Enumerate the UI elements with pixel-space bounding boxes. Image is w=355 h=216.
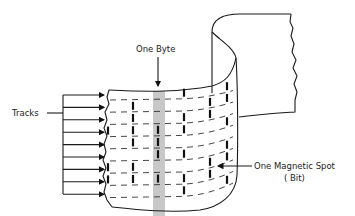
track-line <box>110 160 233 173</box>
track-line <box>110 114 233 125</box>
track-arrows <box>47 95 104 194</box>
track-line <box>110 125 233 136</box>
track-line <box>110 148 233 161</box>
track-lines <box>110 91 233 198</box>
track-line <box>110 137 233 149</box>
magnetic-tape-diagram: One Byte Tracks One Magnetic Spot ( Bit) <box>0 0 355 216</box>
bit-label-line2: ( Bit) <box>284 173 305 183</box>
tape-curl <box>212 14 297 117</box>
track-line <box>110 172 233 186</box>
track-line <box>110 102 233 112</box>
tracks-label: Tracks <box>11 108 39 118</box>
bit-label-line1: One Magnetic Spot <box>254 161 336 171</box>
tape-surface <box>103 58 238 211</box>
track-line <box>110 183 233 198</box>
one-byte-label: One Byte <box>136 44 175 54</box>
track-line <box>110 91 233 101</box>
